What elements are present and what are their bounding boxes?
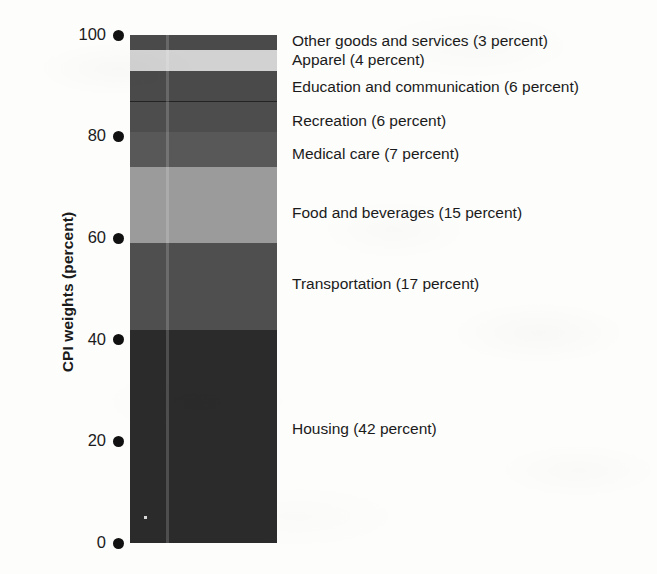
y-axis-title: CPI weights (percent) xyxy=(59,162,77,422)
y-axis-tick-label: 20 xyxy=(88,432,106,449)
segment-label: Recreation (6 percent) xyxy=(292,113,446,130)
y-axis-tick-dot-icon xyxy=(113,436,124,447)
bar-segment xyxy=(130,132,277,168)
bar-segment xyxy=(130,101,277,131)
y-axis-tick-label: 40 xyxy=(88,331,106,348)
segment-label: Apparel (4 percent) xyxy=(292,52,425,69)
y-axis-tick-dot-icon xyxy=(113,30,124,41)
bar-segment xyxy=(130,167,277,243)
y-axis-tick-dot-icon xyxy=(113,131,124,142)
bar-segment xyxy=(130,50,277,70)
y-axis-tick-dot-icon xyxy=(113,233,124,244)
stacked-bar-chart: CPI weights (percent) 100806040200 Other… xyxy=(0,0,657,574)
y-axis-tick-dot-icon xyxy=(113,334,124,345)
y-axis-tick-dot-icon xyxy=(113,538,124,549)
scan-speck-artifact xyxy=(144,516,147,519)
bar-segment xyxy=(130,71,277,101)
y-axis-tick-label: 80 xyxy=(88,127,106,144)
y-axis-tick-label: 100 xyxy=(78,26,106,43)
bar-segment xyxy=(130,243,277,329)
bar-segment xyxy=(130,330,277,543)
segment-label: Food and beverages (15 percent) xyxy=(292,205,522,222)
segment-label: Education and communication (6 percent) xyxy=(292,79,579,96)
segment-label: Transportation (17 percent) xyxy=(292,276,479,293)
segment-label: Housing (42 percent) xyxy=(292,421,437,438)
segment-label: Medical care (7 percent) xyxy=(292,146,459,163)
segment-label: Other goods and services (3 percent) xyxy=(292,33,548,50)
stacked-bar xyxy=(130,35,277,543)
y-axis-tick-label: 60 xyxy=(88,229,106,246)
y-axis-tick-label: 0 xyxy=(97,534,106,551)
bar-segment xyxy=(130,35,277,50)
